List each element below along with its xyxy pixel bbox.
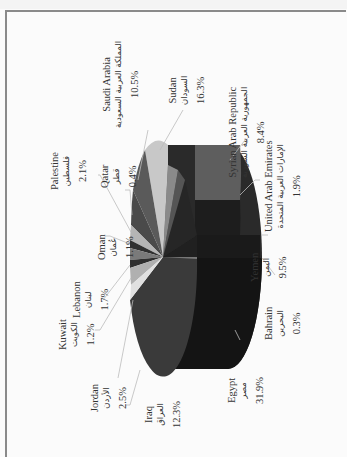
label-saudi-arabia: Saudi Arabia المملكة العربية السعودية 10… — [100, 41, 141, 128]
label-syria: Syrian Arab Republic الجمهورية العربية ا… — [226, 87, 267, 178]
label-uae: United Arab Emirates الإمارات العربية ال… — [262, 140, 303, 232]
label-sudan: Sudan السودان 16.3% — [166, 76, 207, 105]
label-qatar: Qatar قطر 0.4% — [98, 165, 139, 188]
label-palestine: Palestine فلسطين 2.1% — [48, 152, 89, 190]
label-bahrain: Bahrain البحرين 0.3% — [262, 307, 303, 340]
label-yemen: Yemen اليمن 9.5% — [248, 253, 289, 282]
label-iraq: Iraq العراق 12.3% — [142, 401, 183, 428]
label-egypt: Egypt مصر 31.9% — [225, 377, 266, 404]
label-jordan: Jordan الأردن 2.5% — [88, 384, 129, 412]
label-kuwait: Kuwait الكويت 1.2% — [56, 319, 97, 350]
label-lebanon: Lebanon لبنان 1.7% — [70, 281, 111, 318]
label-oman: Oman عُمان 1.1% — [95, 234, 136, 260]
